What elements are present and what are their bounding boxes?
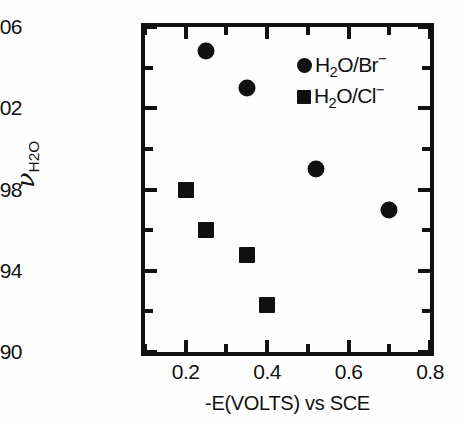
- x-tick-label: 0.6: [335, 360, 363, 384]
- x-tick-label: 0.4: [253, 360, 281, 384]
- y-sub-o: O: [25, 141, 42, 153]
- y-tick-label: 3490: [0, 340, 22, 364]
- nu-symbol: ν: [11, 172, 40, 187]
- y-sub-h: H: [25, 161, 42, 172]
- data-point-circle: [381, 201, 398, 218]
- data-point-square: [198, 222, 214, 238]
- chart-figure: 34903494349835023506 0.20.40.60.8 νH2O -…: [0, 0, 464, 428]
- y-sub-2: 2: [25, 153, 42, 162]
- plot-frame: [141, 23, 434, 356]
- data-points-layer: [145, 27, 430, 352]
- x-tick-label: 0.2: [172, 360, 200, 384]
- data-point-circle: [238, 79, 255, 96]
- data-point-square: [239, 247, 255, 263]
- x-tick-label: 0.8: [416, 360, 444, 384]
- x-axis-title: -E(VOLTS) vs SCE: [141, 392, 434, 415]
- data-point-circle: [308, 161, 325, 178]
- y-axis-title: νH2O: [11, 104, 43, 224]
- y-tick-label: 3506: [0, 15, 22, 39]
- data-point-square: [178, 182, 194, 198]
- y-axis-title-subscript: H2O: [25, 141, 42, 173]
- y-tick-label: 3494: [0, 259, 22, 283]
- data-point-circle: [198, 43, 215, 60]
- data-point-square: [259, 297, 275, 313]
